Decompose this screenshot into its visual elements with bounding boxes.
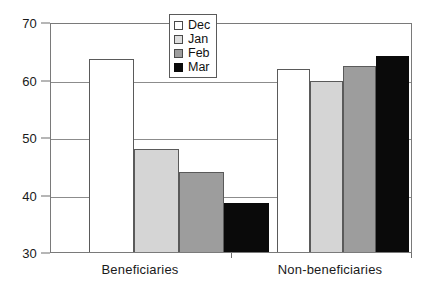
legend-label-feb: Feb — [188, 46, 210, 60]
y-tick-label-50: 50 — [22, 131, 37, 146]
y-tick-mark-50 — [41, 138, 50, 139]
legend-item-feb[interactable]: Feb — [174, 46, 210, 60]
legend-swatch-feb-icon — [174, 49, 183, 58]
plot-area: Dec Jan Feb Mar — [50, 23, 412, 253]
bar-non-beneficiaries-feb[interactable] — [343, 66, 376, 252]
bar-beneficiaries-dec[interactable] — [89, 59, 134, 252]
x-tick-mark-right — [411, 253, 412, 258]
x-group-label-beneficiaries: Beneficiaries — [101, 262, 178, 277]
y-tick-label-70: 70 — [22, 16, 37, 31]
y-tick-label-60: 60 — [22, 73, 37, 88]
legend-item-jan[interactable]: Jan — [174, 32, 210, 46]
bar-non-beneficiaries-dec[interactable] — [277, 69, 310, 252]
y-tick-mark-40 — [41, 195, 50, 196]
y-tick-mark-70 — [41, 23, 50, 24]
bar-non-beneficiaries-mar[interactable] — [376, 56, 409, 252]
y-tick-mark-60 — [41, 80, 50, 81]
x-group-label-non-beneficiaries: Non-beneficiaries — [278, 262, 383, 277]
y-tick-label-30: 30 — [22, 246, 37, 261]
x-tick-mark-center — [231, 253, 232, 258]
bar-chart: 70 60 50 40 30 — [0, 0, 440, 283]
legend-label-jan: Jan — [188, 32, 208, 46]
legend-label-dec: Dec — [188, 18, 210, 32]
legend-swatch-mar-icon — [174, 63, 183, 72]
legend: Dec Jan Feb Mar — [169, 14, 217, 78]
legend-swatch-dec-icon — [174, 21, 183, 30]
bar-group-non-beneficiaries — [277, 24, 409, 252]
legend-item-dec[interactable]: Dec — [174, 18, 210, 32]
bar-beneficiaries-jan[interactable] — [134, 149, 179, 253]
legend-item-mar[interactable]: Mar — [174, 60, 210, 74]
y-axis: 70 60 50 40 30 — [0, 0, 50, 283]
bar-beneficiaries-feb[interactable] — [179, 172, 224, 253]
legend-swatch-jan-icon — [174, 35, 183, 44]
y-tick-label-40: 40 — [22, 188, 37, 203]
y-tick-mark-30 — [41, 253, 50, 254]
bar-non-beneficiaries-jan[interactable] — [310, 81, 343, 252]
legend-label-mar: Mar — [188, 60, 210, 74]
bar-beneficiaries-mar[interactable] — [224, 203, 269, 252]
